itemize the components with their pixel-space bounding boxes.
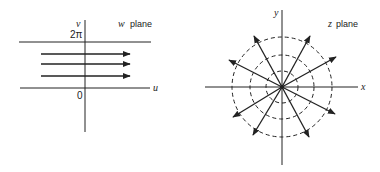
origin-label: 0 [77, 90, 83, 101]
w-plane-title-var: w [118, 18, 125, 29]
x-axis-label: x [360, 81, 366, 92]
u-axis-label: u [153, 82, 158, 93]
origin-dot [280, 85, 284, 89]
z-plane-title-var: z [327, 18, 332, 29]
v-axis-label: v [76, 18, 81, 29]
ray-arrow [233, 87, 282, 117]
z-plane-title-word: plane [336, 19, 358, 29]
w-plane-diagram: v 2π 0 u w plane [19, 18, 158, 132]
y-axis-label: y [273, 7, 279, 18]
figure-canvas: v 2π 0 u w plane y x z plane [0, 0, 380, 172]
z-plane-diagram: y x z plane [205, 7, 366, 165]
two-pi-label: 2π [70, 29, 83, 40]
w-plane-title-word: plane [130, 19, 152, 29]
